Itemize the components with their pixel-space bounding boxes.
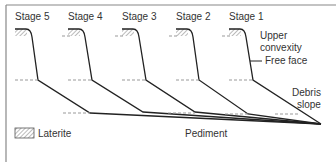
laterite-cap-icon bbox=[176, 29, 188, 36]
pediment-label: Pediment bbox=[185, 128, 227, 139]
stage-5-label: Stage 5 bbox=[15, 11, 49, 22]
diagram-frame: Stage 5 Stage 4 Stage 3 Stage 2 Stage 1 … bbox=[0, 0, 336, 162]
free-face-label: Free face bbox=[265, 55, 307, 66]
laterite-cap-icon bbox=[15, 29, 27, 36]
debris-slope-label-line1: Debris bbox=[292, 87, 321, 98]
laterite-cap-icon bbox=[122, 29, 134, 36]
upper-convexity-label-line2: convexity bbox=[260, 42, 302, 53]
laterite-legend-label: Laterite bbox=[38, 128, 71, 139]
dashed-guides bbox=[15, 36, 300, 114]
laterite-cap-icon bbox=[229, 29, 241, 36]
laterite-cap-icon bbox=[68, 29, 80, 36]
debris-slope-label-line2: slope bbox=[297, 99, 321, 110]
stage-3-label: Stage 3 bbox=[122, 11, 156, 22]
stage-1-label: Stage 1 bbox=[229, 11, 263, 22]
stage-2-label: Stage 2 bbox=[176, 11, 210, 22]
laterite-legend-swatch-icon bbox=[15, 128, 34, 138]
upper-convexity-label-line1: Upper bbox=[260, 30, 287, 41]
stage-4-label: Stage 4 bbox=[68, 11, 102, 22]
